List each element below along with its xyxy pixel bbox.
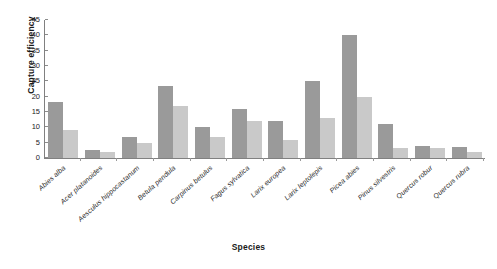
- bar-series_1: [305, 81, 320, 158]
- bar-series_2: [393, 148, 408, 158]
- x-axis-label-cell: Picea abies: [337, 162, 374, 236]
- bar-series_1: [48, 102, 63, 158]
- bar-series_1: [342, 35, 357, 158]
- bar-series_2: [173, 106, 188, 158]
- y-axis-tick-mark: [45, 80, 48, 81]
- x-axis-title: Species: [0, 242, 497, 252]
- y-axis-tick-mark: [45, 111, 48, 112]
- bar-series_1: [158, 86, 173, 158]
- bar-series_1: [195, 127, 210, 158]
- x-axis-label-cell: Carpinus betulus: [191, 162, 228, 236]
- y-axis-tick-label: 45: [10, 15, 40, 24]
- x-axis-category-labels: Abies albaAcer platanoidesAesculus hippo…: [44, 162, 484, 236]
- bar-series_2: [137, 143, 152, 158]
- bar-group: [302, 20, 339, 158]
- bar-group: [375, 20, 412, 158]
- x-axis-label-cell: Larix leptolepis: [301, 162, 338, 236]
- y-axis-tick-label: 0: [10, 153, 40, 162]
- y-axis-tick-mark: [45, 19, 48, 20]
- y-axis-tick-label: 30: [10, 61, 40, 70]
- bar-series_2: [247, 121, 262, 158]
- bar-series_2: [430, 148, 445, 158]
- bar-series_1: [268, 121, 283, 158]
- bar-series-container: [45, 20, 485, 158]
- y-axis-tick-label: 5: [10, 138, 40, 147]
- bar-series_1: [232, 109, 247, 158]
- bar-series_1: [452, 147, 467, 158]
- bar-series_1: [122, 137, 137, 158]
- bar-group: [155, 20, 192, 158]
- y-axis-tick-label: 35: [10, 46, 40, 55]
- bar-series_2: [63, 130, 78, 158]
- bar-series_1: [415, 146, 430, 158]
- y-axis-tick-mark: [45, 142, 48, 143]
- plot-area: 051015202530354045: [44, 20, 485, 159]
- bar-series_2: [210, 137, 225, 158]
- bar-series_2: [320, 118, 335, 158]
- y-axis-tick-label: 15: [10, 107, 40, 116]
- bar-series_1: [378, 124, 393, 158]
- y-axis-tick-label: 10: [10, 122, 40, 131]
- x-axis-label-cell: Aesculus hippocastanum: [117, 162, 154, 236]
- x-axis-label-cell: Quercus robur: [411, 162, 448, 236]
- bar-group: [45, 20, 82, 158]
- bar-group: [192, 20, 229, 158]
- x-axis-label-cell: Fagus sylvatica: [227, 162, 264, 236]
- bar-group: [448, 20, 485, 158]
- y-axis-tick-mark: [45, 34, 48, 35]
- y-axis-tick-label: 20: [10, 92, 40, 101]
- x-axis-label-cell: Larix europea: [264, 162, 301, 236]
- bar-group: [338, 20, 375, 158]
- x-axis-label-cell: Quercus rubra: [447, 162, 484, 236]
- y-axis-tick-mark: [45, 50, 48, 51]
- y-axis-tick-mark: [45, 65, 48, 66]
- bar-group: [228, 20, 265, 158]
- y-axis-tick-label: 40: [10, 30, 40, 39]
- bar-series_2: [283, 140, 298, 158]
- bar-chart-figure: Capture efficiency 051015202530354045 Ab…: [0, 0, 497, 269]
- y-axis-tick-mark: [45, 126, 48, 127]
- bar-series_2: [357, 97, 372, 158]
- bar-group: [265, 20, 302, 158]
- bar-series_1: [85, 150, 100, 158]
- bar-group: [82, 20, 119, 158]
- y-axis-tick-label: 25: [10, 76, 40, 85]
- x-axis-label-cell: Pinus silvestris: [374, 162, 411, 236]
- bar-group: [118, 20, 155, 158]
- y-axis-tick-mark: [45, 96, 48, 97]
- x-axis-tick-label: Abies alba: [37, 164, 67, 192]
- bar-group: [412, 20, 449, 158]
